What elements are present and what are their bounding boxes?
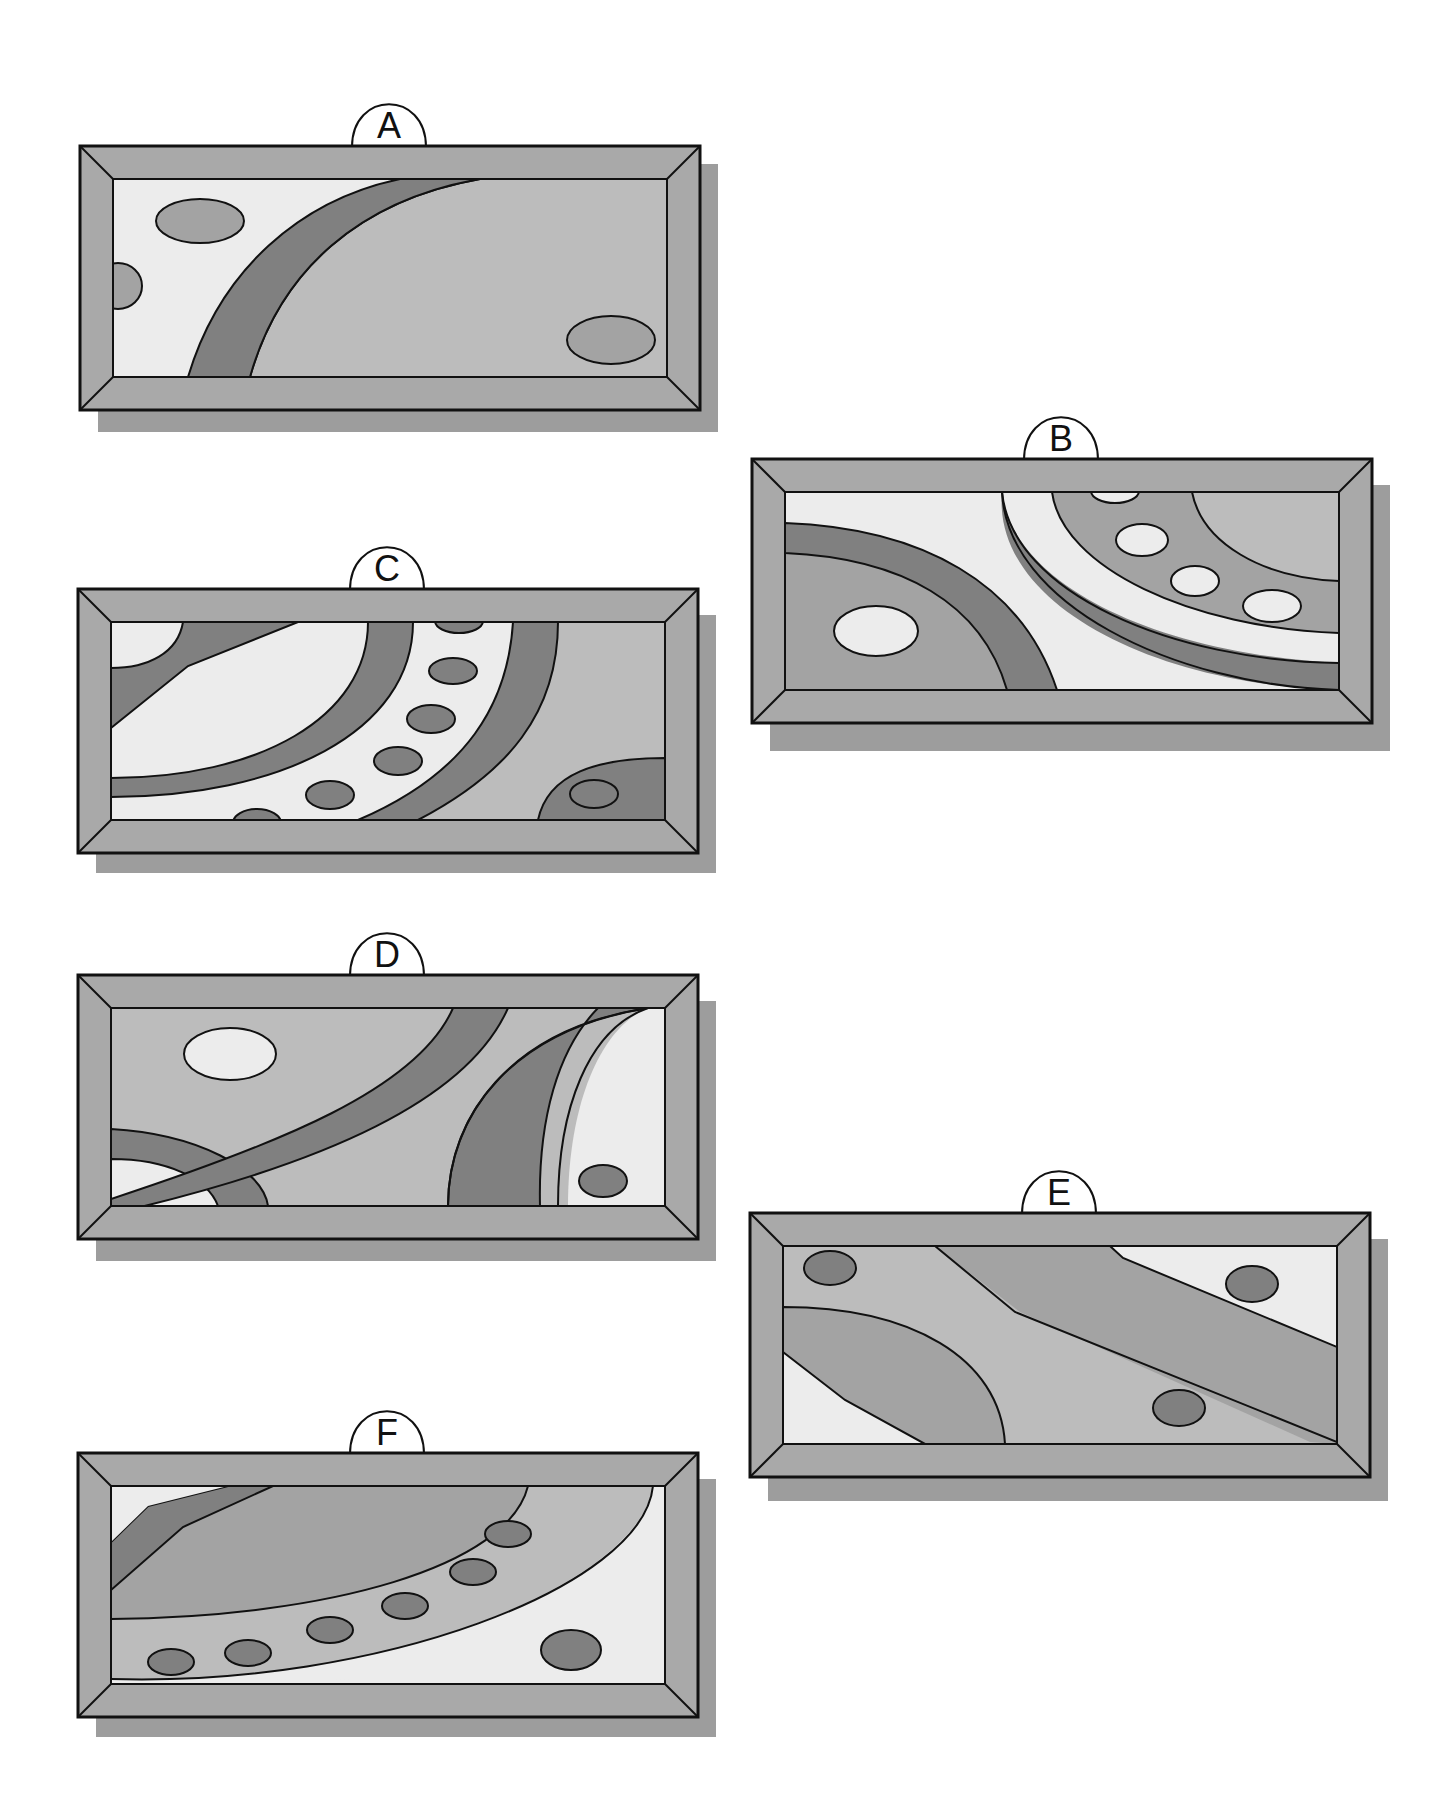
- panel-label: F: [376, 1412, 398, 1453]
- panel-d: D: [78, 919, 738, 1259]
- panel-f-artwork: F: [78, 1397, 738, 1742]
- panel-label: A: [377, 105, 401, 146]
- panel-a: A: [80, 90, 740, 430]
- panel-c: C: [78, 533, 738, 873]
- panel-e-artwork: E: [750, 1157, 1410, 1502]
- panel-f: F: [78, 1397, 738, 1737]
- panel-a-artwork: A: [80, 90, 740, 435]
- panel-label: D: [374, 934, 400, 975]
- panel-label: E: [1047, 1172, 1071, 1213]
- panel-b: B: [752, 403, 1412, 743]
- panel-b-artwork: B: [752, 403, 1412, 748]
- panel-label: C: [374, 548, 400, 589]
- panel-c-artwork: C: [78, 533, 738, 878]
- panel-e: E: [750, 1157, 1410, 1497]
- panel-label: B: [1049, 418, 1073, 459]
- panel-d-artwork: D: [78, 919, 738, 1264]
